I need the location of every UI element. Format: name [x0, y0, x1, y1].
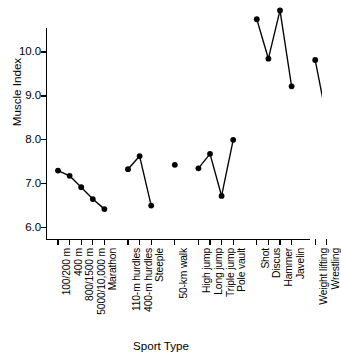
x-tick-label: Long jump: [214, 248, 224, 295]
y-tick-label-wrap: 6.0: [0, 222, 41, 234]
x-tick-mark: [209, 239, 210, 245]
x-tick-label: Hammer: [284, 248, 294, 287]
x-tick-mark: [198, 239, 199, 245]
data-point: [289, 83, 295, 89]
y-tick-label: 7.0: [3, 178, 41, 190]
connector-segment: [222, 140, 234, 196]
connector-segment: [58, 171, 70, 176]
x-tick-label: Wrestling: [331, 248, 341, 289]
connector-segment: [257, 19, 269, 58]
connector-segment: [128, 156, 140, 169]
data-point: [266, 56, 272, 62]
y-tick-label: 6.0: [3, 222, 41, 234]
x-tick-label: High jump: [202, 248, 212, 293]
x-tick-mark: [139, 239, 140, 245]
x-tick-label: Triple jump: [226, 248, 236, 297]
data-point: [148, 203, 154, 209]
x-tick-label: Pole vault: [237, 248, 247, 292]
x-axis-title: Sport Type: [0, 340, 322, 352]
y-tick-mark: [41, 51, 46, 52]
y-tick-mark: [41, 139, 46, 140]
data-point: [172, 162, 178, 168]
x-tick-mark: [151, 239, 152, 245]
x-tick-label: Shot: [261, 248, 271, 269]
data-point: [207, 151, 213, 157]
x-tick-mark: [291, 239, 292, 245]
y-tick-label: 8.0: [3, 134, 41, 146]
data-point: [90, 196, 96, 202]
x-tick-mark: [69, 239, 70, 245]
x-tick-mark: [104, 239, 105, 245]
y-axis-title: Muscle Index: [11, 52, 23, 132]
x-tick-label: 50-km walk: [179, 248, 189, 299]
data-point: [78, 184, 84, 190]
x-tick-label: Discus: [272, 248, 282, 278]
x-tick-mark: [326, 239, 327, 245]
x-axis-line: [46, 239, 310, 240]
connector-segment: [280, 10, 292, 86]
x-tick-label: Marathon: [108, 248, 118, 290]
data-point: [277, 8, 283, 14]
data-point: [312, 57, 318, 63]
x-tick-mark: [221, 239, 222, 245]
x-tick-mark: [174, 239, 175, 245]
x-tick-label: 100/200 m: [62, 248, 72, 295]
x-tick-mark: [256, 239, 257, 245]
data-point: [196, 165, 202, 171]
x-tick-label: Javelin: [296, 248, 306, 279]
connector-segment: [93, 199, 105, 209]
x-tick-mark: [81, 239, 82, 245]
y-tick-mark: [41, 183, 46, 184]
y-tick-label-wrap: 8.0: [0, 134, 41, 146]
data-point: [67, 173, 73, 179]
x-tick-label: 400 m: [74, 248, 84, 276]
x-tick-mark: [57, 239, 58, 245]
connector-segment: [210, 154, 222, 196]
data-point: [125, 166, 131, 172]
x-tick-mark: [315, 239, 316, 245]
connector-segment: [81, 187, 93, 199]
x-tick-mark: [233, 239, 234, 245]
connector-segment: [315, 60, 322, 119]
x-tick-label: Weight lifting: [319, 248, 329, 305]
x-tick-label: Steeple: [155, 248, 165, 282]
y-tick-mark: [41, 95, 46, 96]
x-tick-label: 800/1500 m: [85, 248, 95, 301]
connector-segment: [70, 176, 82, 187]
x-tick-mark: [268, 239, 269, 245]
data-point: [219, 193, 225, 199]
x-tick-label: 110-m hurdles: [132, 248, 142, 311]
x-tick-mark: [127, 239, 128, 245]
x-tick-label: 400-m hurdles: [144, 248, 154, 312]
connector-segment: [268, 10, 280, 58]
x-tick-mark: [92, 239, 93, 245]
x-tick-mark: [279, 239, 280, 245]
connector-segment: [140, 156, 152, 206]
data-point: [230, 137, 236, 143]
data-point: [137, 153, 143, 159]
connector-segment: [198, 154, 210, 168]
x-tick-label: 5000/10,000 m: [97, 248, 107, 315]
data-point: [254, 16, 260, 22]
data-point: [55, 168, 61, 174]
y-tick-label-wrap: 7.0: [0, 178, 41, 190]
y-axis-line: [46, 28, 47, 239]
data-point: [102, 206, 108, 212]
y-tick-mark: [41, 227, 46, 228]
